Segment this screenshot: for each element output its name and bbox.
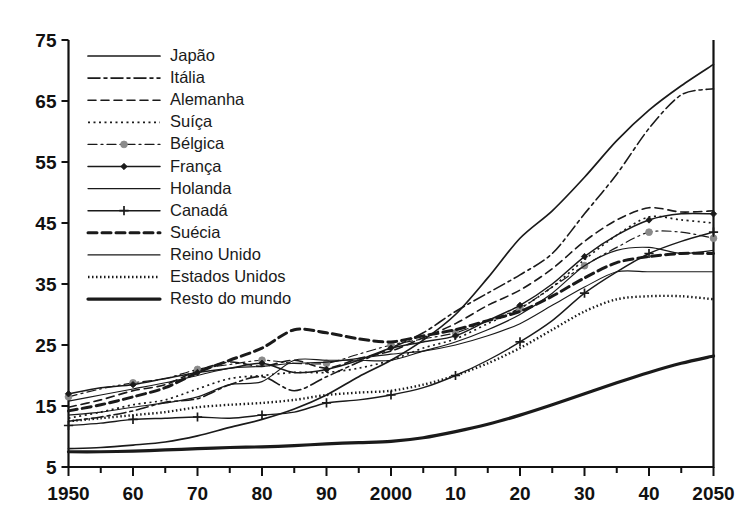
series-6 xyxy=(65,211,716,397)
legend-item-7[interactable]: Holanda xyxy=(88,179,232,197)
x-tick-label: 80 xyxy=(251,483,272,504)
x-tick-label: 90 xyxy=(316,483,337,504)
legend-item-11[interactable]: Estados Unidos xyxy=(88,267,286,285)
legend-item-2[interactable]: Itália xyxy=(88,68,206,86)
series-5 xyxy=(65,229,717,401)
series-line xyxy=(69,208,714,408)
chart-legend: JapãoItáliaAlemanhaSuíçaBélgicaFrançaHol… xyxy=(88,46,291,307)
legend-item-12[interactable]: Resto do mundo xyxy=(88,289,291,307)
legend-label: Itália xyxy=(170,68,206,86)
series-12 xyxy=(69,356,714,452)
legend-item-3[interactable]: Alemanha xyxy=(88,90,245,108)
legend-item-8[interactable]: Canadá xyxy=(88,201,229,219)
legend-label: Canadá xyxy=(170,201,229,219)
x-tick-label: 30 xyxy=(574,483,595,504)
series-line xyxy=(69,89,714,421)
series-line xyxy=(69,213,714,393)
data-point-marker xyxy=(451,371,460,380)
x-axis-tick-labels: 1950607080902000102030402050 xyxy=(47,483,734,504)
chart-container: 515253545556575 195060708090200010203040… xyxy=(0,0,750,529)
data-point-marker xyxy=(64,421,73,430)
legend-item-10[interactable]: Reino Unido xyxy=(88,245,261,263)
series-line xyxy=(69,356,714,452)
data-point-marker xyxy=(119,206,128,215)
data-point-marker xyxy=(121,163,127,169)
legend-label: Suécia xyxy=(170,223,221,241)
x-tick-label: 20 xyxy=(509,483,530,504)
legend-item-9[interactable]: Suécia xyxy=(88,223,221,241)
y-tick-label: 15 xyxy=(35,396,57,417)
legend-item-5[interactable]: Bélgica xyxy=(88,134,225,152)
legend-label: Estados Unidos xyxy=(170,267,286,285)
series-9 xyxy=(69,253,714,411)
data-point-marker xyxy=(646,217,652,223)
series-line xyxy=(69,253,714,411)
legend-item-1[interactable]: Japão xyxy=(88,46,215,64)
chart-series xyxy=(64,64,718,451)
x-tick-label: 2000 xyxy=(370,483,412,504)
legend-label: Reino Unido xyxy=(170,245,261,263)
chart-axes xyxy=(62,40,714,476)
legend-label: Suíça xyxy=(170,112,213,130)
legend-label: Resto do mundo xyxy=(170,289,291,307)
y-tick-label: 65 xyxy=(35,91,57,112)
legend-label: Alemanha xyxy=(170,90,245,108)
series-3 xyxy=(69,208,714,408)
y-tick-label: 35 xyxy=(35,274,57,295)
x-tick-label: 1950 xyxy=(47,483,89,504)
data-point-marker xyxy=(709,228,718,237)
legend-label: Holanda xyxy=(170,179,232,197)
data-point-marker xyxy=(121,141,128,148)
data-point-marker xyxy=(322,398,331,407)
y-tick-label: 75 xyxy=(35,30,57,51)
series-line xyxy=(69,231,714,397)
legend-label: Japão xyxy=(170,46,215,64)
legend-label: Bélgica xyxy=(170,134,225,152)
x-tick-label: 10 xyxy=(445,483,466,504)
y-tick-label: 25 xyxy=(35,335,57,356)
data-point-marker xyxy=(193,412,202,421)
series-8 xyxy=(64,228,718,431)
legend-item-4[interactable]: Suíça xyxy=(88,112,213,130)
y-tick-label: 45 xyxy=(35,213,57,234)
y-axis-tick-labels: 515253545556575 xyxy=(35,30,57,478)
legend-item-6[interactable]: França xyxy=(88,157,222,175)
data-point-marker xyxy=(646,229,653,236)
x-tick-label: 70 xyxy=(187,483,208,504)
line-chart: 515253545556575 195060708090200010203040… xyxy=(0,0,750,529)
x-tick-label: 2050 xyxy=(692,483,734,504)
x-tick-label: 60 xyxy=(122,483,143,504)
y-tick-label: 5 xyxy=(46,457,57,478)
legend-label: França xyxy=(170,157,222,175)
x-tick-label: 40 xyxy=(638,483,659,504)
series-2 xyxy=(69,89,714,421)
y-tick-label: 55 xyxy=(35,152,57,173)
